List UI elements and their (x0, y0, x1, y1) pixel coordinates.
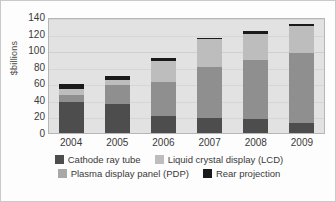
x-tick-2006: 2006 (140, 137, 186, 148)
y-tick-40: 40 (34, 96, 45, 106)
legend-item[interactable]: Rear projection (203, 168, 280, 179)
bar-column-2005[interactable] (95, 19, 141, 133)
bar-segment (289, 26, 314, 53)
legend-swatch-icon (58, 169, 67, 178)
legend-swatch-icon (155, 155, 164, 164)
legend-swatch-icon (55, 155, 64, 164)
bar-segment (243, 119, 268, 133)
bar-column-2009[interactable] (278, 19, 324, 133)
bar-segment (59, 95, 84, 102)
y-tick-80: 80 (34, 63, 45, 73)
bar-stack (105, 76, 130, 133)
legend-row-1: Cathode ray tubeLiquid crystal display (… (1, 154, 336, 165)
legend-label: Liquid crystal display (LCD) (168, 154, 284, 165)
legend-label: Rear projection (216, 168, 280, 179)
legend-item[interactable]: Cathode ray tube (55, 154, 141, 165)
legend-label: Cathode ray tube (68, 154, 141, 165)
legend-item[interactable]: Plasma display panel (PDP) (58, 168, 189, 179)
plot-area (48, 18, 325, 134)
bar-segment (243, 60, 268, 119)
y-tick-60: 60 (34, 79, 45, 89)
x-tick-2007: 2007 (187, 137, 233, 148)
legend-item[interactable]: Liquid crystal display (LCD) (155, 154, 284, 165)
y-axis-tick-labels: 140120100806040200 (19, 13, 45, 138)
x-tick-2005: 2005 (94, 137, 140, 148)
x-tick-2008: 2008 (233, 137, 279, 148)
bar-stack (197, 38, 222, 133)
bar-series-group (49, 19, 324, 133)
bar-stack (151, 58, 176, 133)
y-tick-20: 20 (34, 112, 45, 122)
x-tick-2004: 2004 (48, 137, 94, 148)
y-tick-140: 140 (28, 13, 45, 23)
legend-label: Plasma display panel (PDP) (71, 168, 189, 179)
bar-segment (59, 102, 84, 133)
x-tick-2009: 2009 (279, 137, 325, 148)
bar-segment (151, 116, 176, 133)
bar-stack (243, 31, 268, 133)
bar-segment (289, 123, 314, 133)
bar-column-2007[interactable] (187, 19, 233, 133)
bar-segment (151, 82, 176, 117)
bar-segment (197, 118, 222, 133)
bar-segment (197, 39, 222, 66)
x-axis-tick-labels: 200420052006200720082009 (48, 137, 325, 148)
bar-segment (197, 67, 222, 118)
y-tick-0: 0 (39, 129, 45, 139)
bar-column-2006[interactable] (141, 19, 187, 133)
bar-column-2008[interactable] (232, 19, 278, 133)
legend-swatch-icon (203, 169, 212, 178)
bar-segment (243, 34, 268, 61)
bar-segment (151, 61, 176, 82)
chart-legend: Cathode ray tubeLiquid crystal display (… (1, 154, 336, 182)
bar-column-2004[interactable] (49, 19, 95, 133)
bar-segment (289, 53, 314, 123)
bar-segment (105, 104, 130, 133)
legend-row-2: Plasma display panel (PDP)Rear projectio… (1, 168, 336, 179)
bar-segment (105, 85, 130, 104)
bar-stack (289, 24, 314, 133)
y-tick-120: 120 (28, 30, 45, 40)
y-tick-100: 100 (28, 46, 45, 56)
stacked-bar-chart: $billions 140120100806040200 20042005200… (0, 0, 336, 202)
bar-stack (59, 84, 84, 133)
y-axis-label: $billions (9, 23, 19, 93)
